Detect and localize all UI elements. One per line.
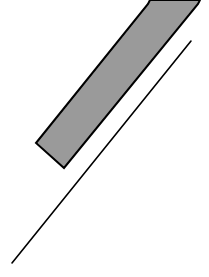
diagram-canvas: [0, 0, 209, 277]
background: [0, 0, 209, 277]
